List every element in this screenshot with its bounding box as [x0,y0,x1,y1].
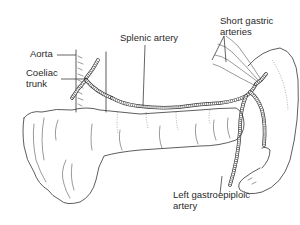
left-gastroepiploic-label-line1: Left gastroepiploic [173,190,250,201]
short-gastric-label-line1: Short gastric [220,16,273,27]
splenic-artery-label: Splenic artery [120,33,178,44]
splenic-artery-diagram: Aorta Coeliac trunk Splenic artery Short… [0,0,300,225]
aorta-shape [76,50,106,112]
coeliac-trunk-label-line1: Coeliac [26,68,58,79]
splenic-artery-shape [112,74,266,185]
left-gastroepiploic-label-line2: artery [173,201,197,212]
coeliac-trunk-label-line2: trunk [26,79,47,90]
aorta-label: Aorta [30,49,53,60]
short-gastric-leader-1 [212,36,224,60]
short-gastric-label-line2: arteries [220,27,252,38]
splenic-artery-leader [143,45,145,106]
spleen-shape [239,48,299,194]
